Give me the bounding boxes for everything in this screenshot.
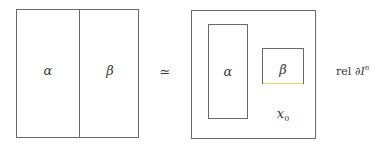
left-beta-label: β xyxy=(106,64,114,77)
inner-alpha-label: α xyxy=(224,65,233,78)
left-square-divider xyxy=(79,9,80,138)
beta-box-bottom-edge xyxy=(263,83,303,84)
inner-beta-label: β xyxy=(279,63,287,76)
left-square xyxy=(16,9,139,138)
basepoint-label: x0 xyxy=(277,107,289,124)
homotopy-symbol: ≃ xyxy=(160,65,171,78)
relative-boundary-text: rel ∂In xyxy=(336,65,369,77)
left-alpha-label: α xyxy=(44,64,53,77)
